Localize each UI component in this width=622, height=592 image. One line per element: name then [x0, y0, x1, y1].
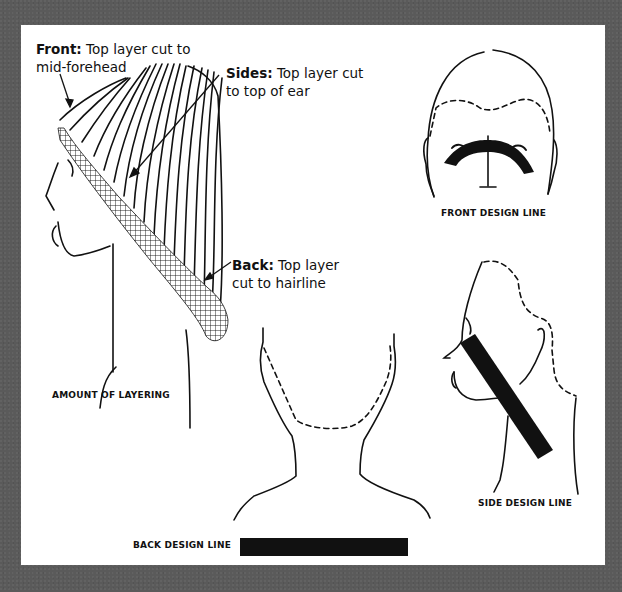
back-design-line-bar — [240, 538, 408, 556]
callout-sides: Sides: Top layer cut to top of ear — [226, 64, 363, 100]
caption-front-design-line: FRONT DESIGN LINE — [441, 208, 546, 218]
callout-front-text1: Top layer cut to — [86, 41, 190, 57]
caption-amount-of-layering: AMOUNT OF LAYERING — [52, 390, 170, 400]
callout-front-title: Front: — [36, 41, 82, 57]
callout-sides-title: Sides: — [226, 65, 273, 81]
callout-sides-text1: Top layer cut — [277, 65, 364, 81]
front-head-illustration — [424, 50, 557, 197]
callout-back-text1: Top layer — [278, 257, 339, 273]
callout-front: Front: Top layer cut to mid-forehead — [36, 40, 190, 76]
callout-back-text2: cut to hairline — [232, 275, 326, 291]
callout-back: Back: Top layer cut to hairline — [232, 256, 339, 292]
caption-back-design-line: BACK DESIGN LINE — [133, 540, 231, 550]
callout-front-text2: mid-forehead — [36, 59, 127, 75]
crosshatch-band — [58, 128, 228, 341]
layering-head-illustration — [46, 64, 222, 428]
callout-sides-text2: to top of ear — [226, 83, 310, 99]
side-head-illustration — [444, 261, 578, 494]
back-head-illustration — [234, 328, 430, 520]
callout-back-title: Back: — [232, 257, 274, 273]
caption-side-design-line: SIDE DESIGN LINE — [478, 498, 572, 508]
